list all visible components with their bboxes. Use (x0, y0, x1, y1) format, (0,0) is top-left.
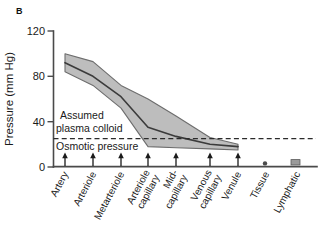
figure-panel-b: B 120 80 40 0 Pressure (mm Hg) Ass (0, 0, 326, 248)
arrow-venous-capillary (207, 153, 213, 167)
category-label-arteriole-capillary: Arteriole capillary (125, 167, 162, 211)
svg-text:Venule: Venule (219, 169, 243, 202)
svg-text:Artery: Artery (48, 170, 70, 199)
arrow-venule (235, 153, 241, 167)
arrow-metarteriole (118, 153, 124, 167)
svg-text:Lymphatic: Lymphatic (271, 170, 302, 215)
y-tick-label-120: 120 (27, 25, 45, 37)
category-label-tissue: Tissue (248, 169, 272, 200)
y-tick-label-80: 80 (33, 70, 45, 82)
x-axis-category-labels: Artery Arteriole Metarteriole Arteriole … (48, 167, 302, 221)
pressure-chart: 120 80 40 0 Pressure (mm Hg) Assumed pla… (0, 0, 326, 248)
y-tick-label-0: 0 (39, 161, 45, 173)
annotation-line-3: Osmotic pressure (56, 140, 138, 152)
svg-text:Tissue: Tissue (248, 169, 272, 200)
category-label-arteriole: Arteriole (71, 169, 98, 207)
vessel-arrow-group (62, 153, 241, 167)
category-label-artery: Artery (48, 170, 70, 199)
annotation-line-2: plasma colloid (56, 122, 123, 134)
category-label-venous-capillary: Venous capillary (187, 168, 224, 211)
arrow-mid-capillary (173, 153, 179, 167)
arrow-arteriole (90, 153, 96, 167)
marker-tissue (263, 161, 267, 165)
y-tick-label-40: 40 (33, 116, 45, 128)
y-axis: 120 80 40 0 Pressure (mm Hg) (3, 25, 54, 173)
category-label-mid-capillary: Mid- capillary (153, 168, 190, 211)
arrow-artery (62, 153, 68, 167)
pressure-range-band (65, 54, 238, 150)
arrow-arteriole-capillary (145, 153, 151, 167)
annotation-line-1: Assumed (60, 109, 104, 121)
panel-label: B (16, 6, 23, 16)
category-label-venule: Venule (219, 169, 243, 202)
category-label-lymphatic: Lymphatic (271, 170, 302, 215)
svg-text:Arteriole: Arteriole (71, 169, 98, 207)
marker-lymphatic (291, 160, 300, 165)
y-axis-title: Pressure (mm Hg) (3, 52, 15, 146)
